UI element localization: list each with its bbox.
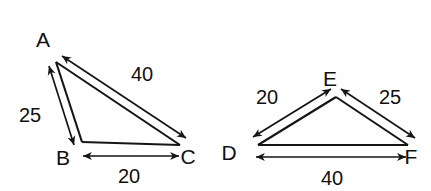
vertex-label-b: B [56,146,70,169]
triangle-abc-side-ca [56,62,180,145]
measure-label-ac: 40 [131,63,153,85]
geometry-canvas: A B C 25 40 20 D E F 20 25 40 [0,0,431,191]
vertex-label-a: A [36,28,50,51]
measure-label-de: 20 [256,86,278,108]
geometry-figure: A B C 25 40 20 D E F 20 25 40 [0,0,431,191]
vertex-label-e: E [323,67,337,90]
measure-label-df: 40 [321,167,343,189]
measure-label-bc: 20 [118,165,140,187]
vertex-label-d: D [221,141,236,164]
measure-label-ef: 25 [379,86,401,108]
vertex-label-f: F [405,145,418,168]
vertex-label-c: C [180,145,195,168]
triangle-abc-group: A B C 25 40 20 [19,28,196,187]
dimension-arrow-ac [62,56,186,138]
triangle-abc-side-bc [82,142,180,145]
measure-label-ab: 25 [19,104,41,126]
triangle-def-group: D E F 20 25 40 [221,67,417,189]
dimension-arrow-ef [341,89,415,138]
